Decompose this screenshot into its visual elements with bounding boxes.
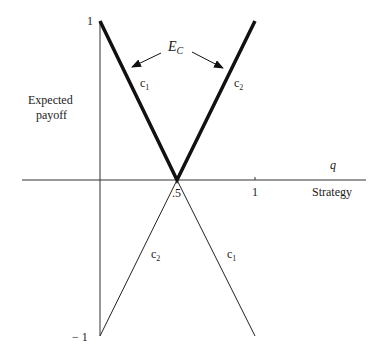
arrow-left [132,53,161,67]
line-c2-lower [100,180,177,336]
c1-upper-label: c1 [140,76,149,92]
x-axis-label: Strategy [312,185,352,199]
y-tick-bottom: − 1 [72,330,88,344]
payoff-diagram [0,0,383,358]
y-axis-label-line1: Expected [28,93,73,107]
c1-lower-label: c1 [227,247,236,263]
x-tick-half-label: .5 [172,186,181,200]
ec-label: EC [168,40,183,55]
arrow-right [192,52,223,68]
y-axis-label-line2: payoff [36,108,67,122]
x-tick-one-label: 1 [252,185,258,199]
c2-lower-label: c2 [151,247,160,263]
y-tick-top: 1 [87,14,93,28]
line-c1-lower [177,180,255,336]
x-variable-label: q [330,158,336,172]
c2-upper-label: c2 [234,76,243,92]
